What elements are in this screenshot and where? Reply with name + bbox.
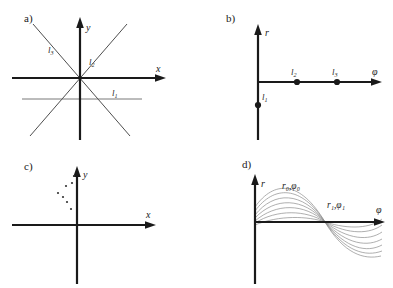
panel-c-label: c) (24, 160, 33, 172)
panel-d: d) r φ r₀,φ₀ r₁,φ₁ (196, 144, 393, 288)
point-label-l3: l3 (332, 67, 338, 77)
annotation-r0-phi0: r₀,φ₀ (282, 181, 300, 191)
panel-b-phi-axis-label: φ (372, 66, 378, 77)
point-label-l1: l1 (262, 92, 268, 102)
panel-a-x-axis-label: x (156, 63, 160, 74)
panel-c-x-axis-label: x (146, 209, 150, 220)
scatter-dot (62, 196, 64, 198)
panel-c-y-axis-label: y (83, 169, 87, 180)
scatter-dots (57, 175, 75, 210)
panel-d-r-axis-label: r (261, 178, 265, 189)
scatter-dot (57, 192, 59, 194)
panel-c: c) y x (0, 144, 196, 288)
line-l3 (33, 24, 130, 136)
panel-a: a) y x l3 l2 l1 (0, 0, 196, 144)
panel-a-y-axis-label: y (86, 22, 90, 33)
y-axis-arrow (76, 17, 84, 28)
panel-b-label: b) (226, 12, 235, 24)
label-l3: l3 (48, 45, 54, 55)
label-l1: l1 (112, 88, 118, 98)
panel-b: b) r φ l1 l2 l3 (196, 0, 393, 144)
sinusoid-curve (255, 198, 382, 249)
scatter-dot (65, 185, 67, 187)
scatter-dot (66, 201, 68, 203)
scatter-dot (73, 175, 75, 177)
phi-axis-arrow (371, 78, 382, 86)
x-axis-arrow (145, 221, 156, 229)
panel-d-phi-axis-label: φ (376, 204, 382, 215)
scatter-dot (70, 208, 72, 210)
line-l2 (30, 24, 127, 136)
panel-a-label: a) (24, 12, 33, 24)
panel-d-plot (196, 144, 393, 288)
label-l2: l2 (89, 57, 95, 67)
x-axis-arrow (155, 74, 166, 82)
annotation-r1-phi1: r₁,φ₁ (327, 200, 345, 210)
r-axis-arrow (254, 24, 262, 35)
panel-b-r-axis-label: r (265, 27, 269, 38)
point-label-l2: l2 (291, 67, 297, 77)
point-l1 (255, 102, 261, 108)
panel-d-label: d) (242, 158, 251, 170)
figure-canvas: a) y x l3 l2 l1 b) (0, 0, 393, 288)
scatter-dot (71, 182, 73, 184)
point-l3 (334, 79, 340, 85)
r-axis-arrow (251, 174, 259, 185)
point-l2 (294, 79, 300, 85)
phi-axis-arrow (374, 218, 385, 226)
